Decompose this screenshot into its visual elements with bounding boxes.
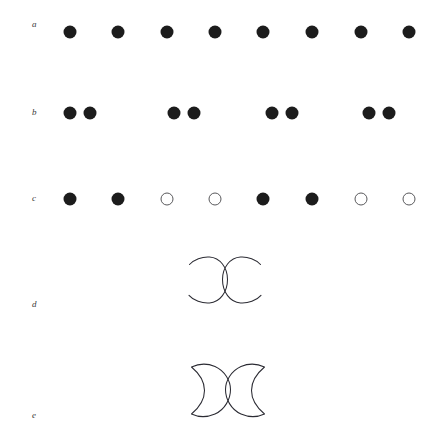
marker-c-1 bbox=[64, 193, 77, 206]
marker-a-4 bbox=[209, 26, 222, 39]
row-d: d bbox=[0, 245, 433, 330]
marker-b-4 bbox=[188, 107, 201, 120]
marker-c-5 bbox=[257, 193, 270, 206]
row-e-shape-mirrored-crescents bbox=[183, 358, 273, 434]
marker-a-6 bbox=[306, 26, 319, 39]
marker-b-8 bbox=[383, 107, 396, 120]
mirrored-crescents-svg bbox=[183, 358, 273, 434]
marker-b-7 bbox=[363, 107, 376, 120]
marker-c-7 bbox=[355, 193, 368, 206]
row-c-markers bbox=[0, 184, 433, 214]
marker-c-6 bbox=[306, 193, 319, 206]
marker-a-3 bbox=[161, 26, 174, 39]
crescent-right bbox=[226, 364, 265, 416]
arc-right-open-circle bbox=[223, 257, 262, 303]
mirrored-open-arcs-svg bbox=[180, 250, 270, 328]
marker-a-5 bbox=[257, 26, 270, 39]
row-d-shape-mirrored-open-arcs bbox=[180, 250, 270, 328]
row-a-markers bbox=[0, 18, 433, 48]
marker-b-5 bbox=[266, 107, 279, 120]
row-a: a bbox=[0, 0, 433, 64]
row-b-markers bbox=[0, 98, 433, 128]
marker-c-4 bbox=[209, 193, 222, 206]
marker-a-7 bbox=[355, 26, 368, 39]
marker-c-2 bbox=[112, 193, 125, 206]
row-e: e bbox=[0, 352, 433, 437]
marker-a-8 bbox=[403, 26, 416, 39]
row-label-d: d bbox=[32, 300, 37, 309]
marker-c-3 bbox=[161, 193, 174, 206]
arc-left-open-circle bbox=[189, 257, 228, 303]
marker-c-8 bbox=[403, 193, 416, 206]
marker-a-2 bbox=[112, 26, 125, 39]
marker-b-3 bbox=[168, 107, 181, 120]
marker-b-2 bbox=[84, 107, 97, 120]
row-c: c bbox=[0, 168, 433, 230]
marker-b-6 bbox=[286, 107, 299, 120]
figure-panel: a b c bbox=[0, 0, 433, 437]
marker-b-1 bbox=[64, 107, 77, 120]
crescent-left bbox=[192, 364, 231, 416]
row-b: b bbox=[0, 82, 433, 144]
row-label-e: e bbox=[32, 411, 36, 420]
marker-a-1 bbox=[64, 26, 77, 39]
